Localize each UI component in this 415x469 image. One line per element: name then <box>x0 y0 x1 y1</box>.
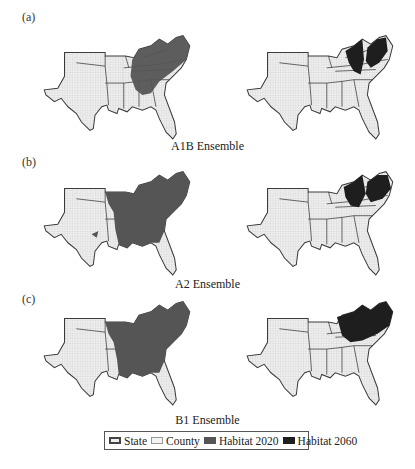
map-b1-2020 <box>22 300 212 410</box>
habitat-2020-swatch-icon <box>204 437 216 444</box>
legend-label: Habitat 2020 <box>219 435 279 447</box>
legend-item-county: County <box>151 435 200 447</box>
legend-item-habitat-2060: Habitat 2060 <box>283 435 358 447</box>
map-a1b-2060 <box>225 34 415 144</box>
legend-item-habitat-2020: Habitat 2020 <box>204 435 279 447</box>
panel-label-a: (a) <box>22 10 35 25</box>
caption-b1: B1 Ensemble <box>0 413 415 428</box>
habitat-2060-swatch-icon <box>283 437 295 444</box>
caption-a2: A2 Ensemble <box>0 277 415 292</box>
legend-label: Habitat 2060 <box>298 435 358 447</box>
panel-label-b: (b) <box>22 155 36 170</box>
legend-label: County <box>166 435 200 447</box>
legend-label: State <box>124 435 147 447</box>
map-b1-2060 <box>225 300 415 410</box>
legend-item-state: State <box>109 435 147 447</box>
map-a2-2060 <box>225 170 415 280</box>
state-swatch-icon <box>109 437 121 444</box>
county-swatch-icon <box>151 437 163 444</box>
caption-a1b: A1B Ensemble <box>0 139 415 154</box>
legend: State County Habitat 2020 Habitat 2060 <box>104 431 309 450</box>
map-a2-2020 <box>22 170 212 280</box>
map-a1b-2020 <box>22 34 212 144</box>
